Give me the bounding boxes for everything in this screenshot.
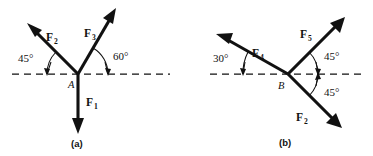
vector-b-f2-label: F 2 [296, 111, 308, 126]
vector-b-f5-label: F 5 [300, 28, 312, 43]
vertex-a-label: A [67, 79, 75, 90]
angle-a-60-arc [93, 48, 108, 74]
vector-b-f4-label-letter: F [252, 47, 259, 59]
angle-a-45-marker [44, 52, 56, 76]
vector-a-f2-label-subscript: 2 [54, 37, 58, 46]
vector-a-f3-shaft [78, 19, 110, 74]
vector-a-f1-arrowhead [72, 118, 84, 134]
angle-b-30-label: 30° [213, 52, 228, 64]
vector-a-f3-label: F 3 [84, 27, 96, 42]
caption-a: (a) [71, 138, 83, 149]
vector-b-f4-label-subscript: 4 [260, 53, 264, 62]
vector-a-f2-label-letter: F [46, 31, 53, 43]
vector-b-f5-label-subscript: 5 [308, 34, 312, 43]
vector-a-f3 [78, 8, 116, 74]
figure-canvas: F 2 F 3 F 1 45° 60° A (a) [0, 0, 373, 156]
angle-b-45-upper-label: 45° [324, 50, 339, 62]
angle-b-30-marker [240, 52, 248, 76]
angle-b-45-upper-marker [309, 52, 321, 76]
vector-b-f5-label-letter: F [300, 28, 307, 40]
angle-b-30-pointer-arrowhead [240, 68, 246, 76]
angle-a-60-pointer-arrowhead [105, 68, 111, 76]
vertex-b-label: B [278, 80, 285, 91]
angle-a-45-pointer-arrowhead [44, 68, 50, 76]
force-diagram-figure: F 2 F 3 F 1 45° 60° A (a) [0, 0, 373, 156]
vector-b-f2-label-letter: F [296, 111, 303, 123]
vector-b-f2-label-subscript: 2 [304, 117, 308, 126]
panel-a: F 2 F 3 F 1 45° 60° A (a) [12, 8, 170, 149]
angle-a-45-label: 45° [18, 52, 33, 64]
panel-b: F 4 F 5 F 2 30° 45° 45° B (b) [210, 17, 366, 148]
vector-a-f3-label-letter: F [84, 27, 91, 39]
angle-a-60-label: 60° [113, 50, 128, 62]
angle-b-45-lower-pointer-arrowhead [315, 72, 321, 80]
angle-a-60-marker [93, 48, 111, 76]
vector-a-f1-label: F 1 [86, 96, 98, 111]
vector-a-f3-arrowhead [103, 8, 116, 24]
vector-a-f1-label-subscript: 1 [94, 102, 98, 111]
vector-b-f4-label: F 4 [252, 47, 264, 62]
vector-a-f1-label-letter: F [86, 96, 93, 108]
angle-b-45-lower-label: 45° [324, 86, 339, 98]
caption-b: (b) [279, 137, 291, 148]
vector-a-f3-label-subscript: 3 [92, 33, 96, 42]
angle-b-45-lower-marker [309, 72, 321, 96]
